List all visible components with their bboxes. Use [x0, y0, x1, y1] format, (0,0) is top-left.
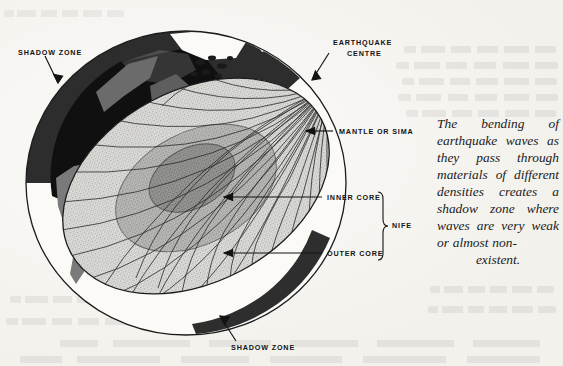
label-outer-core: OUTER CORE: [327, 249, 383, 259]
caption-block: The bending of earthquake waves as they …: [437, 116, 559, 269]
caption-text: The bending of earthquake waves as they …: [437, 116, 559, 250]
label-earthquake-centre-line1: EARTHQUAKE: [333, 38, 392, 48]
label-inner-core: INNER CORE: [327, 193, 381, 203]
label-nife: NIFE: [392, 221, 412, 231]
caption-last-word: existent.: [437, 252, 559, 269]
label-shadow-zone-bottom: SHADOW ZONE: [231, 343, 295, 353]
arrowhead-earthquake-centre: [312, 71, 321, 80]
label-mantle-or-sima: MANTLE OR SIMA: [339, 127, 414, 137]
arrowhead-shadow-zone-top: [54, 74, 63, 83]
label-earthquake-centre-line2: CENTRE: [347, 49, 382, 59]
label-shadow-zone-top: SHADOW ZONE: [18, 48, 82, 58]
figure-page: SHADOW ZONE EARTHQUAKE CENTRE MANTLE OR …: [0, 0, 563, 366]
